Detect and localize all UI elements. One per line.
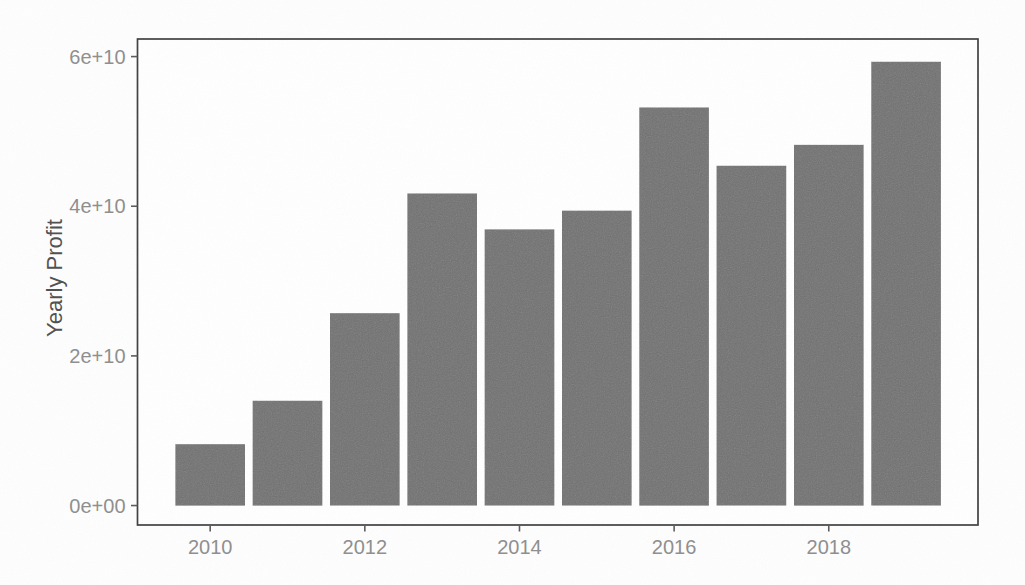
bar-grain — [717, 166, 787, 506]
y-tick-label-0e+00: 0e+00 — [69, 495, 125, 517]
bar-grain — [794, 145, 864, 506]
bar-grain — [871, 62, 941, 506]
bar-grain — [639, 108, 709, 506]
x-tick-label-2018: 2018 — [807, 536, 852, 558]
x-tick-label-2010: 2010 — [188, 536, 233, 558]
bar-grain — [407, 194, 477, 506]
bar-grain — [562, 211, 632, 506]
bar-grain — [485, 229, 555, 505]
x-tick-label-2014: 2014 — [497, 536, 542, 558]
y-tick-label-4e+10: 4e+10 — [69, 195, 125, 217]
y-axis-title: Yearly Profit — [42, 219, 67, 337]
bar-grain — [253, 401, 323, 506]
bar-grain — [330, 313, 400, 505]
x-tick-label-2012: 2012 — [343, 536, 388, 558]
x-tick-label-2016: 2016 — [652, 536, 697, 558]
figure: 20102012201420162018 0e+002e+104e+106e+1… — [0, 0, 1025, 585]
y-tick-label-6e+10: 6e+10 — [69, 46, 125, 68]
bar-grain — [175, 444, 245, 505]
y-tick-label-2e+10: 2e+10 — [69, 345, 125, 367]
bar-chart: 20102012201420162018 0e+002e+104e+106e+1… — [0, 0, 1025, 585]
